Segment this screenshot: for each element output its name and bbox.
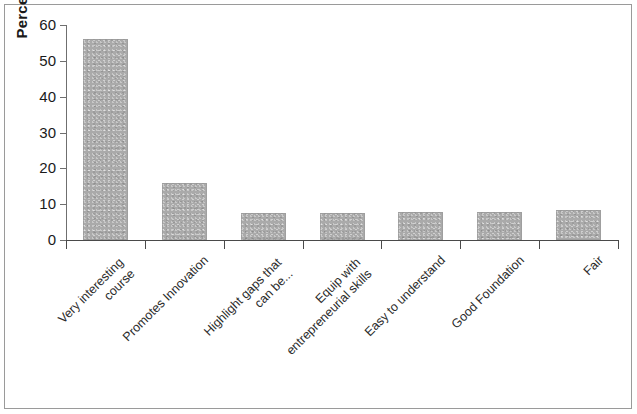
y-axis-tick-label: 30 xyxy=(22,125,56,141)
bar xyxy=(83,39,128,240)
y-axis-tick-label: 50 xyxy=(22,53,56,69)
bar xyxy=(477,212,522,240)
y-axis-tick-label: 60 xyxy=(22,17,56,33)
y-axis-tick-label-text: 50 xyxy=(26,53,56,68)
x-axis-tick-mark xyxy=(539,241,540,249)
y-axis-tick-label-text: 30 xyxy=(26,125,56,140)
y-axis-tick-label: 10 xyxy=(22,196,56,212)
y-axis-tick-label-text: 40 xyxy=(26,89,56,104)
x-axis-tick-mark xyxy=(618,241,619,249)
plot-area xyxy=(66,25,618,240)
y-axis-tick-label: 0 xyxy=(22,232,56,248)
x-axis-tick-mark xyxy=(460,241,461,249)
chart-figure: Percentage 6050403020100 Very interestin… xyxy=(0,0,637,414)
x-axis-tick-mark xyxy=(303,241,304,249)
bar xyxy=(320,213,365,240)
y-axis-tick-label-text: 60 xyxy=(26,17,56,32)
x-axis-line xyxy=(66,240,619,241)
bar xyxy=(556,210,601,240)
x-axis-category-label: Very interesting course xyxy=(10,255,139,384)
y-axis-tick-label: 40 xyxy=(22,89,56,105)
x-axis-tick-mark xyxy=(224,241,225,249)
x-axis-tick-mark xyxy=(381,241,382,249)
bar xyxy=(398,212,443,240)
x-axis-tick-mark-origin xyxy=(66,241,67,249)
bar xyxy=(162,183,207,240)
x-axis-tick-mark xyxy=(145,241,146,249)
bar xyxy=(241,213,286,240)
y-axis-tick-label-text: 0 xyxy=(26,232,56,247)
y-axis-tick-label-text: 10 xyxy=(26,196,56,211)
y-axis-tick-label-text: 20 xyxy=(26,160,56,175)
y-axis-tick-label: 20 xyxy=(22,160,56,176)
